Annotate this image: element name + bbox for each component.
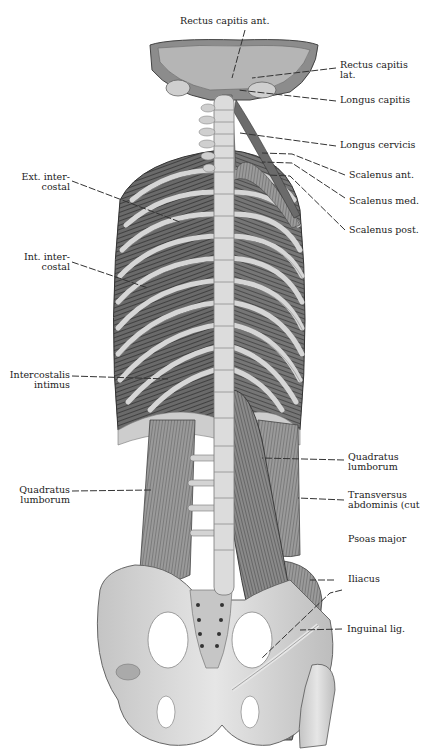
- label-rectus-capitis-ant: Rectus capitis ant.: [180, 16, 269, 26]
- label-scalenus-med: Scalenus med.: [349, 196, 419, 206]
- label-iliacus: Iliacus: [348, 574, 380, 584]
- pelvis: [97, 565, 332, 745]
- label-intercostalis-intimus: Intercostalis intimus: [0, 370, 70, 390]
- label-longus-capitis: Longus capitis: [340, 95, 410, 105]
- anatomy-figure: Rectus capitis ant. Rectus capitis lat. …: [0, 0, 435, 754]
- quadratus-lumborum-left-muscle: [140, 420, 195, 581]
- label-longus-cervicis: Longus cervicis: [340, 140, 415, 150]
- label-transversus-abdominis: Transversus abdominis (cut: [348, 490, 420, 510]
- label-scalenus-post: Scalenus post.: [349, 225, 419, 235]
- label-quadratus-lumborum-left: Quadratus lumborum: [10, 485, 70, 505]
- label-inguinal-lig: Inguinal lig.: [347, 624, 405, 634]
- label-quadratus-lumborum-right: Quadratus lumborum: [348, 452, 399, 472]
- label-psoas-major: Psoas major: [348, 534, 406, 544]
- label-rectus-capitis-lat: Rectus capitis lat.: [340, 60, 408, 80]
- label-scalenus-ant: Scalenus ant.: [349, 170, 414, 180]
- label-int-intercostal: Int. inter- costal: [10, 252, 70, 272]
- label-ext-intercostal: Ext. inter- costal: [10, 172, 70, 192]
